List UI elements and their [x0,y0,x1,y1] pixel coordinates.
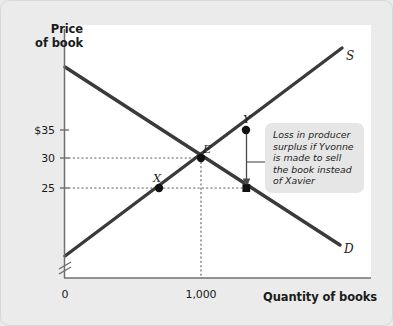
point-marker-demand-low [242,184,250,192]
point-label-x: X [153,171,161,185]
y-axis-title-line2: of book [35,36,83,50]
x-axis-title: Quantity of books [263,290,377,304]
point-marker-x [155,184,163,192]
y-axis-title-line1: Price [51,22,83,36]
supply-curve-label: S [346,49,354,63]
demand-curve-label: D [344,242,354,256]
point-label-e: E [203,142,211,156]
y-axis-title: Price of book [9,23,83,50]
y-tick-label-25: 25 [5,182,55,195]
point-label-y: Y [243,112,251,126]
y-tick-label-30: 30 [5,152,55,165]
surplus-loss-arrow [243,133,250,188]
y-tick-label-35: $35 [5,124,55,137]
x-tick-label-1000: 1,000 [177,288,225,301]
figure-frame: Price of book Quantity of books $35 30 2… [0,0,393,326]
x-tick-label-0: 0 [56,288,74,301]
point-marker-y [242,126,250,134]
producer-surplus-loss-callout: Loss in producer surplus if Yvonne is ma… [265,123,364,193]
